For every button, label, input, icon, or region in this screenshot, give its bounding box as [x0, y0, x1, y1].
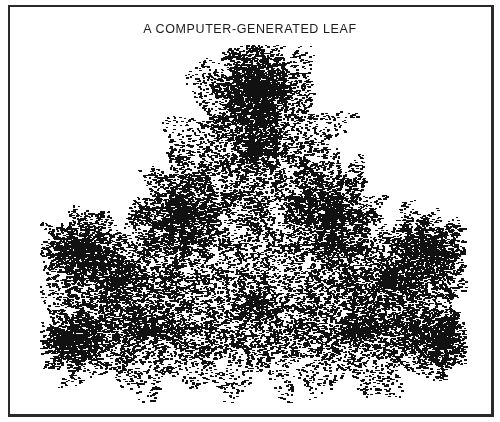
- fractal-leaf-image: [0, 0, 500, 422]
- figure-title: A COMPUTER-GENERATED LEAF: [0, 22, 500, 36]
